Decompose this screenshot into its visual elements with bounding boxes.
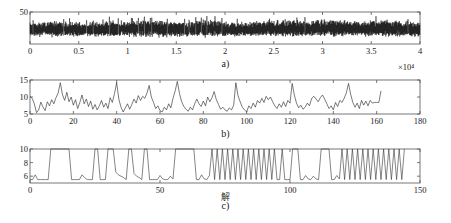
xtick-a-8: 4	[418, 46, 423, 56]
ytick-b-0: 5	[24, 109, 28, 119]
xtick-a-1: 0.5	[73, 46, 84, 56]
figure-container: 00.511.522.533.5450 a) ×10⁴ 020406080100…	[0, 0, 451, 223]
xtick-a-3: 1.5	[171, 46, 182, 56]
xtick-b-8: 160	[370, 116, 383, 126]
xtick-b-3: 60	[156, 116, 165, 126]
xtick-a-6: 3	[320, 46, 324, 56]
caption-c: c)	[0, 200, 451, 211]
xtick-a-4: 2	[223, 46, 227, 56]
xtick-c-3: 150	[414, 185, 427, 195]
xtick-b-9: 180	[414, 116, 427, 126]
xtick-c-1: 50	[156, 185, 165, 195]
panel-c-plot: 0501001506810	[0, 143, 451, 223]
panel-c: 0501001506810	[0, 143, 451, 223]
xtick-a-0: 0	[28, 46, 32, 56]
series-line-b	[30, 81, 381, 112]
xtick-b-7: 140	[327, 116, 340, 126]
xtick-b-2: 40	[112, 116, 121, 126]
xtick-c-2: 100	[284, 185, 297, 195]
series-line-a	[30, 16, 420, 38]
xtick-b-6: 120	[284, 116, 297, 126]
caption-a: a)	[0, 58, 451, 69]
caption-b: b)	[0, 128, 451, 139]
ytick-c-2: 10	[20, 144, 29, 154]
ytick-b-1: 10	[20, 92, 29, 102]
xtick-a-5: 2.5	[268, 46, 279, 56]
ytick-b-2: 15	[20, 75, 29, 85]
xtick-a-7: 3.5	[366, 46, 377, 56]
xtick-c-0: 0	[28, 185, 32, 195]
xtick-b-1: 20	[69, 116, 78, 126]
x-multiplier-a: ×10⁴	[398, 62, 414, 72]
series-line-c	[30, 149, 404, 180]
xtick-b-5: 100	[240, 116, 253, 126]
xtick-b-4: 80	[199, 116, 208, 126]
xtick-b-0: 0	[28, 116, 32, 126]
xtick-a-2: 1	[125, 46, 129, 56]
ytick-a-0: 50	[20, 7, 29, 17]
ytick-c-0: 6	[24, 171, 28, 181]
ytick-c-1: 8	[24, 158, 28, 168]
